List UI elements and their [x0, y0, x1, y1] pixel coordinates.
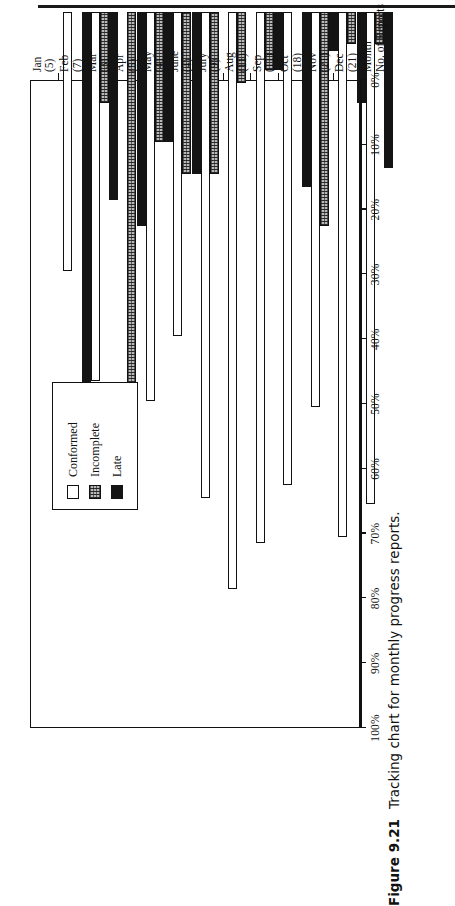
axis-title-no-of-reports: No. of Reports [374, 4, 387, 72]
value-tick-label: 100% [369, 714, 381, 742]
bar-june-conformed [201, 12, 210, 498]
category-label-count: (21) [346, 53, 359, 72]
bar-aug-conformed [256, 12, 265, 543]
category-label-month: Sep [251, 53, 264, 72]
legend-item-incomplete: Incomplete [84, 393, 106, 499]
category-label-month: Apr [113, 54, 126, 72]
category-tick [58, 73, 59, 80]
category-label-count: (5) [43, 57, 56, 72]
legend-swatch-conformed-icon [67, 485, 79, 499]
value-tick-label: 50% [369, 393, 381, 415]
category-label-feb: Feb(7) [58, 55, 83, 72]
value-tick [360, 338, 366, 339]
value-tick-label: 10% [369, 134, 381, 156]
category-label-month: Aug [223, 52, 236, 72]
value-tick-label: 20% [369, 199, 381, 221]
value-tick [360, 273, 366, 274]
category-tick [223, 73, 224, 80]
value-tick [360, 403, 366, 404]
axis-title-month: Month [361, 4, 374, 72]
category-tick [85, 73, 86, 80]
bar-july-incomplete [237, 12, 246, 83]
value-tick-label: 80% [369, 588, 381, 610]
category-label-nov: Nov(21) [306, 52, 331, 72]
category-label-month: Jan [31, 57, 44, 72]
category-label-dec: Dec(21) [333, 53, 358, 72]
category-label-june: June(4) [168, 51, 193, 72]
category-tick [305, 73, 306, 80]
value-tick-label: 40% [369, 328, 381, 350]
bar-june-incomplete [210, 12, 219, 174]
bar-nov-conformed [338, 12, 347, 537]
category-label-july: July(9) [196, 53, 221, 72]
category-label-month: Nov [306, 52, 319, 72]
bar-sep-late [302, 12, 311, 187]
category-label-month: May [141, 51, 154, 72]
value-tick [360, 468, 366, 469]
category-label-count: (11) [236, 52, 249, 72]
category-label-month: Oct [278, 53, 291, 72]
category-label-count: (3) [98, 53, 111, 72]
bar-apr-incomplete [155, 12, 164, 142]
category-label-sep: Sep(11) [251, 53, 276, 72]
bar-feb-late [109, 12, 118, 200]
value-tick [360, 662, 366, 663]
category-label-month: Mar [86, 53, 99, 72]
value-tick-label: 90% [369, 652, 381, 674]
category-tick [333, 73, 334, 80]
category-label-count: (5) [126, 54, 139, 72]
figure-caption: Figure 9.21Tracking chart for monthly pr… [386, 486, 402, 906]
legend-item-conformed: Conformed [62, 393, 84, 499]
legend-label-incomplete: Incomplete [88, 423, 103, 477]
category-label-aug: Aug(11) [223, 52, 248, 72]
bar-july-conformed [228, 12, 237, 589]
value-tick-label: 70% [369, 523, 381, 545]
category-label-jan: Jan(5) [31, 57, 56, 72]
bar-mar-late [137, 12, 146, 226]
category-label-apr: Apr(5) [113, 54, 138, 72]
category-label-count: (4) [181, 51, 194, 72]
figure-caption-text: Tracking chart for monthly progress repo… [386, 511, 402, 809]
bar-jan-conformed [63, 12, 72, 271]
value-tick [360, 727, 366, 728]
category-label-month: June [168, 51, 181, 72]
bar-apr-late [164, 12, 173, 142]
category-label-count: (21) [318, 52, 331, 72]
legend-label-conformed: Conformed [66, 422, 81, 477]
bar-nov-incomplete [347, 12, 356, 44]
value-tick [360, 532, 366, 533]
category-tick [113, 73, 114, 80]
category-label-mar: Mar(3) [86, 53, 111, 72]
bar-sep-conformed [283, 12, 292, 485]
category-label-oct: Oct(18) [278, 53, 303, 72]
category-label-may: May(4) [141, 51, 166, 72]
bar-may-late [192, 12, 201, 174]
category-label-month: July [196, 53, 209, 72]
category-label-month: Dec [333, 53, 346, 72]
category-label-count: (9) [208, 53, 221, 72]
bar-oct-incomplete [320, 12, 329, 226]
value-tick [360, 79, 366, 80]
category-tick [195, 73, 196, 80]
value-axis [360, 80, 362, 728]
category-label-count: (7) [71, 55, 84, 72]
value-tick [360, 144, 366, 145]
axis-title-block: Month No. of Reports [361, 4, 387, 72]
category-label-count: (18) [291, 53, 304, 72]
category-label-count: (4) [153, 51, 166, 72]
category-tick [278, 73, 279, 80]
legend: Conformed Incomplete Late [52, 382, 138, 510]
legend-swatch-late-icon [111, 485, 123, 499]
value-tick [360, 597, 366, 598]
category-tick [250, 73, 251, 80]
value-tick-label: 30% [369, 264, 381, 286]
value-tick-label: 60% [369, 458, 381, 480]
category-tick [168, 73, 169, 80]
value-tick-label: 0% [369, 72, 381, 88]
category-label-count: (11) [263, 53, 276, 72]
category-label-month: Feb [58, 55, 71, 72]
legend-swatch-incomplete-icon [89, 485, 101, 499]
legend-item-late: Late [106, 393, 128, 499]
